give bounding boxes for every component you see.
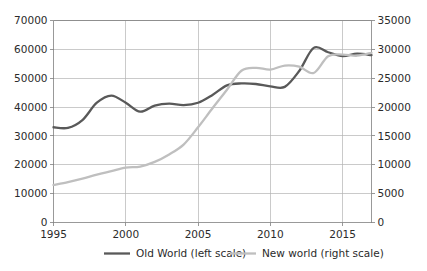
- x-axis-tick-label: 2015: [329, 228, 356, 240]
- x-axis-tick-label: 2000: [112, 228, 139, 240]
- chart-container: 010000200003000040000500006000070000 050…: [0, 0, 427, 271]
- dual-axis-line-chart: 010000200003000040000500006000070000 050…: [0, 0, 427, 271]
- y-axis-right-tick-label: 15000: [378, 130, 411, 142]
- y-axis-left-tick-label: 30000: [14, 130, 47, 142]
- x-axis-tick-label: 2010: [257, 228, 284, 240]
- legend-label-new-world: New world (right scale): [262, 247, 384, 259]
- y-axis-left-tick-label: 20000: [14, 158, 47, 170]
- y-axis-left-tick-label: 50000: [14, 72, 47, 84]
- series-line-new-world: [54, 53, 372, 185]
- y-axis-left-tick-labels: 010000200003000040000500006000070000: [14, 14, 53, 228]
- y-axis-left-tick-label: 60000: [14, 43, 47, 55]
- legend-label-old-world: Old World (left scale): [136, 247, 246, 259]
- y-axis-right-tick-label: 5000: [378, 187, 405, 199]
- y-axis-left-tick-label: 10000: [14, 187, 47, 199]
- y-axis-left-tick-label: 0: [41, 216, 48, 228]
- y-axis-right-tick-label: 0: [378, 216, 385, 228]
- y-axis-right-tick-label: 35000: [378, 14, 411, 26]
- y-axis-left-tick-label: 70000: [14, 14, 47, 26]
- y-axis-right-tick-labels: 05000100001500020000250003000035000: [372, 14, 411, 228]
- x-axis-tick-labels: 19952000200520102015: [40, 223, 356, 240]
- y-axis-right-tick-label: 30000: [378, 43, 411, 55]
- y-axis-right-tick-label: 25000: [378, 72, 411, 84]
- y-axis-right-tick-label: 20000: [378, 101, 411, 113]
- x-axis-tick-label: 2005: [185, 228, 212, 240]
- x-axis-tick-label: 1995: [40, 228, 67, 240]
- chart-legend: Old World (left scale)New world (right s…: [104, 247, 384, 259]
- data-series: [54, 47, 372, 185]
- y-axis-right-tick-label: 10000: [378, 158, 411, 170]
- y-axis-left-tick-label: 40000: [14, 101, 47, 113]
